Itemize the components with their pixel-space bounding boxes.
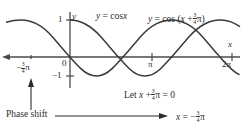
- phase-shift-vertical-arrow: [28, 78, 34, 110]
- curve-cos-x: [70, 20, 240, 76]
- curve2-variable: x: [181, 14, 185, 24]
- origin-label: 0: [62, 59, 67, 68]
- curve-label-cos-x: y = cosx: [96, 12, 127, 22]
- curve2-label-equals: =: [155, 14, 160, 24]
- x-tick-label-two-pi: 2π: [222, 60, 231, 69]
- let-equals-zero: = 0: [162, 90, 174, 100]
- result-equals: =: [183, 112, 188, 122]
- curve2-label-function: cos: [162, 14, 175, 24]
- phase-shift-right-arrowhead: [159, 113, 168, 119]
- curve-label-argument: x: [123, 11, 127, 21]
- curve-cos-x-plus-three-quarters-pi: [6, 20, 240, 76]
- pi-symbol: π: [25, 62, 30, 72]
- phase-shift-label: Phase shift: [6, 110, 47, 120]
- x-axis-left-arrowhead: [2, 54, 10, 60]
- phase-shift-up-arrowhead: [28, 78, 34, 87]
- y-axis-label: y: [72, 12, 76, 21]
- curve-label-function: cos: [110, 11, 123, 21]
- x-axis-label: x: [228, 40, 232, 49]
- phase-shift-connector: [55, 113, 168, 119]
- phase-shift-result: x = −34π: [176, 110, 205, 123]
- let-pi: π: [155, 90, 160, 100]
- result-pi: π: [200, 112, 205, 122]
- result-variable: x: [176, 112, 180, 122]
- curve-label-equals: =: [103, 11, 108, 21]
- curve2-paren-close: ): [202, 14, 205, 24]
- curve-label-cos-x-plus-phase: y = cos (x +34π): [148, 12, 205, 25]
- y-tick-label-1: 1: [58, 15, 63, 24]
- x-tick-label-pi: π: [148, 60, 153, 69]
- annotation-let-equation: Let x +34π = 0: [124, 88, 175, 101]
- curve2-label-lhs: y: [148, 14, 152, 24]
- let-prefix: Let: [124, 90, 137, 100]
- y-tick-label-minus-1: −1: [52, 71, 62, 80]
- let-variable: x: [139, 90, 143, 100]
- x-tick-label-minus-three-quarters-pi: −34π: [16, 62, 30, 74]
- curve-label-lhs: y: [96, 11, 100, 21]
